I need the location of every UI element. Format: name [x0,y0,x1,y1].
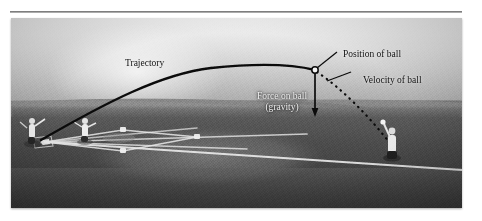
horizontal-rule [10,11,462,13]
batter-figure [20,118,45,148]
label-force-on-ball: Force on ball [241,91,323,102]
photograph-plate: Trajectory Position of ball Velocity of … [11,18,462,208]
label-force-gravity: (gravity) [241,102,323,113]
base-second [120,127,126,132]
label-trajectory: Trajectory [125,58,164,69]
grass-band [11,168,462,208]
velocity-leader-line [327,72,351,81]
base-third [120,148,126,153]
base-first [194,134,200,139]
pitchers-mound [103,133,135,143]
ball-marker [312,67,318,73]
figure-container: Trajectory Position of ball Velocity of … [0,0,482,221]
diagram-overlay [11,18,462,208]
label-position-of-ball: Position of ball [343,49,401,60]
outfielder-figure [380,119,401,161]
clipped-caption [150,0,410,2]
label-velocity-of-ball: Velocity of ball [363,75,422,86]
position-leader-line [317,52,337,68]
